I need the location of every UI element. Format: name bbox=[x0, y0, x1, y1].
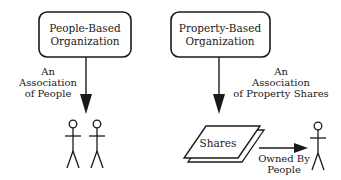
box-line-2: Organization bbox=[50, 35, 119, 47]
property-based-organization-box: Property-Based Organization bbox=[171, 12, 270, 57]
property-association-label: An Association of Property Shares bbox=[233, 66, 328, 99]
owned-by-arrow bbox=[259, 143, 308, 153]
label-line-1: An bbox=[273, 66, 288, 77]
person-icon bbox=[65, 120, 81, 168]
label-line-3: of People bbox=[25, 88, 72, 99]
people-association-arrow bbox=[80, 57, 92, 114]
property-association-arrow bbox=[213, 57, 225, 114]
label-line-2: Association bbox=[251, 77, 311, 88]
label-line-2: People bbox=[267, 164, 301, 175]
person-icon bbox=[89, 120, 105, 168]
box-line-1: People-Based bbox=[49, 22, 121, 34]
shares-label: Shares bbox=[200, 137, 237, 149]
box-line-1: Property-Based bbox=[179, 22, 262, 34]
people-based-organization-box: People-Based Organization bbox=[39, 12, 131, 57]
owned-by-label: Owned By People bbox=[258, 153, 310, 175]
person-icon bbox=[310, 122, 326, 170]
shares-document-icon: Shares bbox=[184, 126, 264, 162]
people-association-label: An Association of People bbox=[18, 66, 78, 99]
label-line-1: Owned By bbox=[258, 153, 310, 164]
label-line-1: An bbox=[40, 66, 55, 77]
organization-diagram: People-Based Organization An Association… bbox=[0, 0, 341, 180]
box-line-2: Organization bbox=[185, 35, 254, 47]
label-line-3: of Property Shares bbox=[233, 88, 328, 99]
label-line-2: Association bbox=[18, 77, 78, 88]
